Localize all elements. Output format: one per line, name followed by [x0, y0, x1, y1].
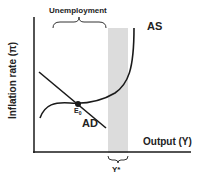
unemployment-bracket [53, 17, 106, 28]
ad-as-diagram [0, 0, 204, 178]
equilibrium-label: E0 [74, 107, 81, 116]
potential-output-label: Y* [112, 165, 120, 174]
potential-output-bracket [108, 156, 128, 163]
x-axis-label: Output (Y) [143, 136, 192, 147]
unemployment-label: Unemployment [49, 6, 107, 15]
as-label: AS [147, 20, 162, 32]
ad-label: AD [82, 117, 98, 129]
equilibrium-subscript: 0 [79, 110, 82, 116]
y-axis-label: Inflation rate (π) [7, 41, 18, 121]
